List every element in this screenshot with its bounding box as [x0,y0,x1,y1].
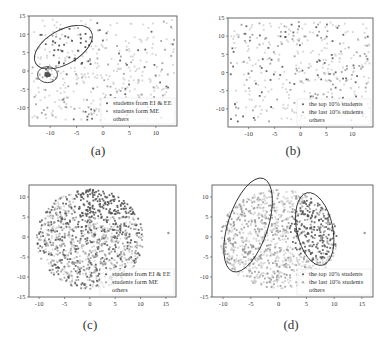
caption-a: (a) [78,143,118,159]
legend-label: students form ME [113,107,159,114]
svg-text:10: 10 [218,32,224,39]
svg-text:-10: -10 [17,273,26,280]
legend: students from EI & EEstudents form MEoth… [100,269,174,295]
legend-marker [302,103,304,105]
svg-text:-5: -5 [248,300,253,307]
svg-text:10: 10 [331,300,337,307]
legend-marker [302,273,304,275]
legend-label: the last 10% students [309,108,364,115]
svg-text:0: 0 [88,300,91,307]
caption-d: (d) [271,317,311,333]
panel-a: -10-50510-10-5051015students from EI & E… [0,0,195,165]
svg-text:15: 15 [218,14,224,21]
outlier-point [363,232,365,234]
legend-marker [302,281,304,283]
svg-text:-5: -5 [20,253,25,260]
legend-label: others [309,286,325,293]
legend-marker [106,102,108,104]
svg-text:10: 10 [349,130,355,137]
svg-text:5: 5 [205,213,208,220]
svg-text:5: 5 [325,130,328,137]
legend-label: students from EI & EE [112,270,171,277]
svg-text:10: 10 [153,129,159,136]
svg-text:0: 0 [205,233,208,240]
svg-text:-10: -10 [46,129,55,136]
legend-label: others [113,115,129,122]
legend-label: others [309,116,325,123]
legend-marker [105,281,107,283]
svg-text:5: 5 [305,300,308,307]
panel-b: -10-50510-10-5051015the top 10% students… [195,0,391,165]
svg-text:15: 15 [19,12,25,19]
legend: the top 10% studentsthe last 10% student… [297,269,371,295]
caption-c: (c) [70,317,110,333]
svg-text:0: 0 [101,129,104,136]
svg-text:0: 0 [277,300,280,307]
svg-text:5: 5 [22,49,25,56]
svg-text:-5: -5 [20,86,25,93]
legend-label: the top 10% students [309,100,363,107]
svg-text:-10: -10 [200,273,209,280]
svg-text:-5: -5 [272,130,277,137]
svg-text:-10: -10 [17,104,26,111]
legend-marker [105,273,107,275]
legend-label: the last 10% students [309,278,364,285]
svg-text:-15: -15 [200,293,209,300]
svg-text:10: 10 [19,31,25,38]
legend-marker [302,111,304,113]
svg-text:-10: -10 [244,130,253,137]
svg-text:0: 0 [299,130,302,137]
legend: the top 10% studentsthe last 10% student… [297,99,371,125]
svg-text:5: 5 [22,213,25,220]
svg-text:-10: -10 [35,300,44,307]
legend-marker [106,110,108,112]
scatter-plot-a: -10-50510-10-5051015students from EI & E… [0,0,195,165]
svg-text:10: 10 [137,300,143,307]
legend-label: others [112,286,128,293]
svg-text:5: 5 [128,129,131,136]
annotation-ellipse [27,16,99,77]
svg-text:-10: -10 [219,300,228,307]
svg-text:0: 0 [22,233,25,240]
svg-text:0: 0 [22,67,25,74]
panel-d: -10-5051015-15-10-50510the top 10% stude… [195,170,391,348]
svg-text:-15: -15 [17,293,26,300]
svg-text:-5: -5 [219,87,224,94]
outlier-point [167,232,169,234]
legend-label: the top 10% students [309,270,363,277]
svg-text:15: 15 [359,300,365,307]
svg-text:-10: -10 [216,105,225,112]
scatter-plot-b: -10-50510-10-5051015the top 10% students… [195,0,391,165]
svg-text:10: 10 [19,193,25,200]
svg-text:5: 5 [114,300,117,307]
svg-text:0: 0 [221,69,224,76]
svg-text:5: 5 [221,51,224,58]
svg-text:15: 15 [163,300,169,307]
svg-text:-5: -5 [203,253,208,260]
svg-text:-5: -5 [74,129,79,136]
legend-label: students from EI & EE [113,99,172,106]
svg-text:10: 10 [202,193,208,200]
panel-c: -10-5051015-15-10-50510students from EI … [0,170,195,348]
legend: students from EI & EEstudents form MEoth… [101,98,175,124]
svg-text:-5: -5 [62,300,67,307]
caption-b: (b) [273,143,313,159]
legend-label: students form ME [112,278,158,285]
